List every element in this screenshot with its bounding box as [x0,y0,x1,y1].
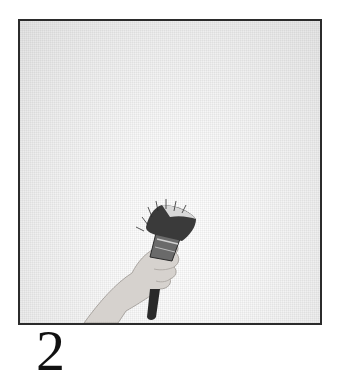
paintbrush-hand-photo [20,21,320,323]
figure-number: 2 [36,322,65,374]
photo-frame [18,19,322,325]
